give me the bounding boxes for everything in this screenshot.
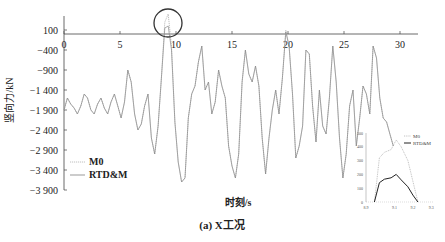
inset-y-tick-label: 200 <box>357 172 363 177</box>
inset-y-tick-label: 0 <box>361 200 363 205</box>
inset-x-tick-label: 8.9 <box>364 205 369 210</box>
inset-y-tick-label: 400 <box>357 144 363 149</box>
y-tick-label: −1 900 <box>30 105 58 116</box>
y-ticks: 100−400−900−1 400−1 900−2 400−2 900−3 40… <box>30 25 67 196</box>
chart: 100−400−900−1 400−1 900−2 400−2 900−3 40… <box>0 0 445 242</box>
x-tick-label: 0 <box>62 39 67 50</box>
legend: M0 RTD&M <box>70 156 128 180</box>
y-tick-label: −2 900 <box>30 145 58 156</box>
inset-x-tick-label: 9.1 <box>392 205 397 210</box>
peak-highlight-circle <box>154 9 182 37</box>
y-tick-label: −900 <box>37 65 58 76</box>
figure-caption: (a) X工况 <box>199 218 245 232</box>
inset-y-tick-label: 300 <box>357 158 363 163</box>
y-tick-label: −2 400 <box>30 125 58 136</box>
legend-label-m0: M0 <box>89 156 103 167</box>
x-tick-label: 30 <box>395 39 405 50</box>
inset-y-tick-label: 100 <box>357 186 363 191</box>
inset-chart: 0100200300400500 8.99.19.29.3 M0 RTD&M <box>357 131 434 211</box>
y-axis-label: 竖向力/kN <box>3 78 15 123</box>
x-tick-label: 5 <box>118 39 123 50</box>
inset-x-tick-label: 9.2 <box>410 205 415 210</box>
legend-label-rtdm: RTD&M <box>89 169 128 180</box>
inset-y-tick-label: 500 <box>357 131 363 136</box>
x-axis-label: 时刻/s <box>225 196 252 208</box>
y-tick-label: −3 900 <box>30 185 58 196</box>
y-tick-label: 100 <box>43 25 58 36</box>
x-tick-label: 15 <box>227 39 237 50</box>
y-tick-label: −400 <box>37 45 58 56</box>
x-tick-label: 10 <box>171 39 181 50</box>
x-tick-label: 25 <box>339 39 349 50</box>
inset-legend-rtdm: RTD&M <box>413 141 432 146</box>
inset-y-ticks: 0100200300400500 <box>357 131 363 205</box>
inset-x-tick-label: 9.3 <box>429 205 434 210</box>
y-tick-label: −1 400 <box>30 85 58 96</box>
y-tick-label: −3 400 <box>30 165 58 176</box>
inset-x-ticks: 8.99.19.29.3 <box>364 205 434 210</box>
inset-rtdm-line <box>374 174 418 202</box>
inset-legend-m0: M0 <box>413 134 420 139</box>
